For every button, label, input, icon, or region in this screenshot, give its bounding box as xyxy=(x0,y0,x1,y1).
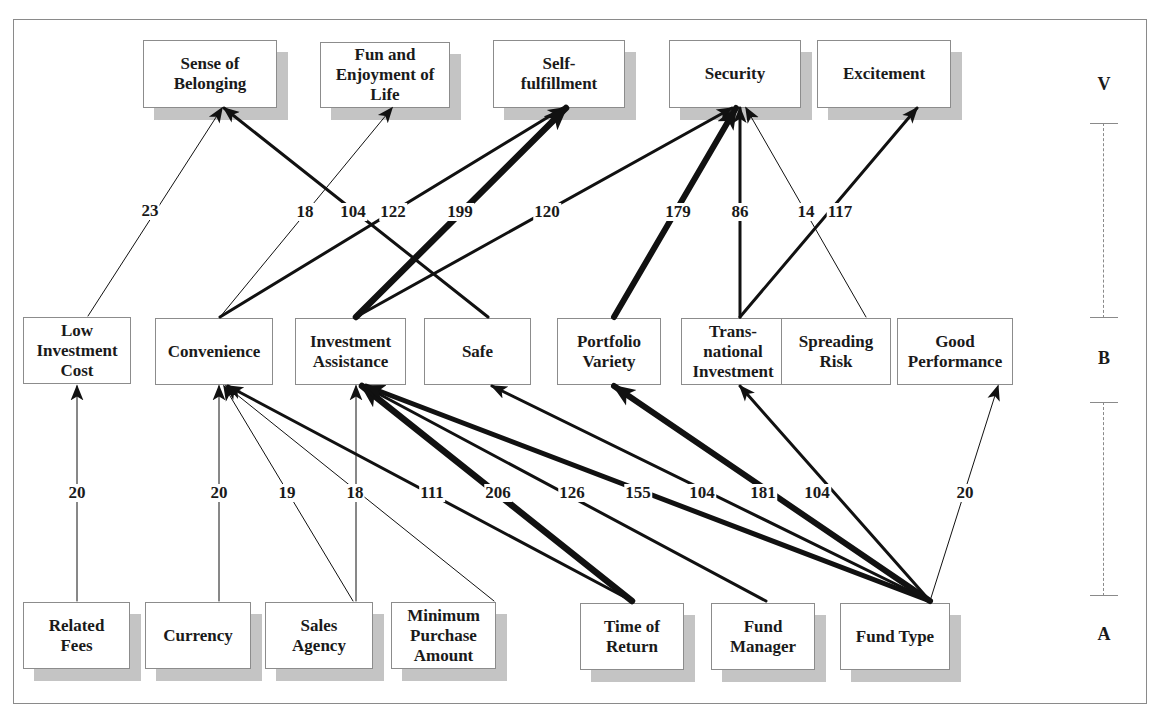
link-weight-label: 18 xyxy=(346,484,365,502)
node-currency: Currency xyxy=(145,602,251,669)
node-fund-manager: Fund Manager xyxy=(711,603,815,670)
node-time-of-return: Time of Return xyxy=(580,603,684,670)
node-transnational-investment: Trans- national Investment xyxy=(681,318,785,385)
link-weight-label: 18 xyxy=(296,203,315,221)
node-safe: Safe xyxy=(424,318,531,385)
level-label-values: V xyxy=(1098,74,1111,95)
link-weight-label: 117 xyxy=(827,203,854,221)
node-low-investment-cost: Low Investment Cost xyxy=(23,317,131,384)
link-weight-label: 20 xyxy=(956,484,975,502)
link-weight-label: 199 xyxy=(446,203,474,221)
link-weight-label: 126 xyxy=(558,484,586,502)
node-investment-assistance: Investment Assistance xyxy=(295,318,406,385)
scale-cap-bottom xyxy=(1090,317,1118,318)
node-related-fees: Related Fees xyxy=(23,602,130,669)
node-portfolio-variety: Portfolio Variety xyxy=(557,318,661,385)
link-weight-label: 120 xyxy=(533,203,561,221)
link-weight-label: 155 xyxy=(624,484,652,502)
level-label-benefits: B xyxy=(1098,348,1110,369)
node-sales-agency: Sales Agency xyxy=(265,602,373,669)
link-weight-label: 104 xyxy=(803,484,831,502)
node-convenience: Convenience xyxy=(155,318,273,385)
link-weight-label: 111 xyxy=(419,484,445,502)
link-weight-label: 104 xyxy=(339,203,367,221)
link-weight-label: 104 xyxy=(688,484,716,502)
scale-cap-top xyxy=(1090,123,1118,124)
node-excitement: Excitement xyxy=(817,40,951,108)
node-good-performance: Good Performance xyxy=(897,318,1013,385)
node-minimum-purchase-amount: Minimum Purchase Amount xyxy=(391,602,496,669)
node-self-fulfillment: Self- fulfillment xyxy=(493,40,625,108)
link-weight-label: 20 xyxy=(210,484,229,502)
link-weight-label: 206 xyxy=(484,484,512,502)
link-weight-label: 86 xyxy=(731,203,750,221)
level-scale-bar-b-to-a xyxy=(1090,402,1118,596)
node-security: Security xyxy=(669,40,801,108)
link-weight-label: 19 xyxy=(278,484,297,502)
link-weight-label: 122 xyxy=(379,203,407,221)
link-weight-label: 23 xyxy=(141,202,160,220)
link-weight-label: 14 xyxy=(797,203,816,221)
level-scale-bar-v-to-b xyxy=(1090,123,1118,318)
level-label-attributes: A xyxy=(1098,624,1111,645)
link-weight-label: 179 xyxy=(664,203,692,221)
scale-dashed-line xyxy=(1103,402,1104,596)
link-weight-label: 181 xyxy=(749,484,777,502)
node-fund-type: Fund Type xyxy=(840,603,950,670)
node-sense-of-belonging: Sense of Belonging xyxy=(143,40,277,108)
scale-cap-top xyxy=(1090,402,1118,403)
scale-cap-bottom xyxy=(1090,595,1118,596)
node-spreading-risk: Spreading Risk xyxy=(781,318,891,385)
node-fun-enjoyment: Fun and Enjoyment of Life xyxy=(320,42,450,108)
link-weight-label: 20 xyxy=(68,484,87,502)
scale-dashed-line xyxy=(1103,123,1104,318)
